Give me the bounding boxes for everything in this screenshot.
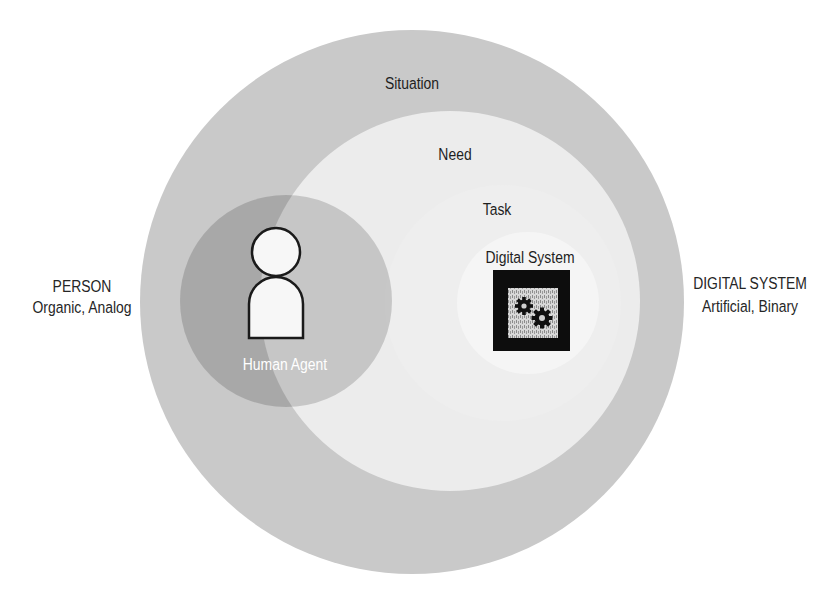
person-icon bbox=[249, 228, 303, 338]
person-subheading: Organic, Analog bbox=[32, 298, 131, 317]
digital-system-side-label: DIGITAL SYSTEM Artificial, Binary bbox=[693, 274, 807, 316]
digital-system-label: Digital System bbox=[485, 248, 574, 267]
context-diagram: Situation Need Task Digital System Human… bbox=[0, 0, 832, 598]
person-head bbox=[252, 228, 300, 276]
digital-system-subheading: Artificial, Binary bbox=[702, 297, 798, 316]
human-agent-label: Human Agent bbox=[243, 355, 328, 374]
person-body bbox=[249, 277, 303, 338]
person-side-label: PERSON Organic, Analog bbox=[32, 277, 131, 317]
system-screen bbox=[508, 288, 558, 338]
situation-label: Situation bbox=[385, 74, 439, 93]
need-label: Need bbox=[438, 145, 471, 164]
digital-system-heading: DIGITAL SYSTEM bbox=[693, 274, 807, 293]
task-label: Task bbox=[483, 200, 512, 219]
person-heading: PERSON bbox=[53, 277, 112, 296]
system-icon bbox=[493, 270, 570, 351]
